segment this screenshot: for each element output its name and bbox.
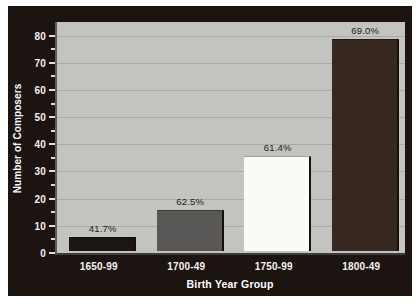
y-tick-label: 10 bbox=[34, 220, 46, 231]
bar-value-label: 62.5% bbox=[157, 196, 224, 207]
bar-value-label: 69.0% bbox=[332, 25, 399, 36]
y-tick-label: 70 bbox=[34, 57, 46, 68]
x-tick-label: 1800-49 bbox=[318, 261, 406, 272]
y-tick-label: 30 bbox=[34, 166, 46, 177]
y-tick-label: 20 bbox=[34, 193, 46, 204]
bar-value-label: 41.7% bbox=[69, 223, 136, 234]
bar-slot[interactable]: 69.0% bbox=[332, 18, 399, 251]
bar[interactable] bbox=[69, 237, 136, 251]
bar[interactable] bbox=[332, 39, 399, 251]
bar-slot[interactable]: 41.7% bbox=[69, 18, 136, 251]
bars-layer: 41.7%62.5%61.4%69.0% bbox=[57, 22, 405, 253]
y-tick-label: 80 bbox=[34, 30, 46, 41]
bar-slot[interactable]: 62.5% bbox=[157, 18, 224, 251]
bar-value-label: 61.4% bbox=[244, 142, 311, 153]
y-tick-label: 0 bbox=[40, 248, 46, 259]
x-tick-label: 1650-99 bbox=[55, 261, 143, 272]
plot-area: 41.7%62.5%61.4%69.0% bbox=[55, 22, 405, 255]
bar-slot[interactable]: 61.4% bbox=[244, 18, 311, 251]
y-tick-label: 40 bbox=[34, 139, 46, 150]
bar[interactable] bbox=[157, 210, 224, 251]
bar[interactable] bbox=[244, 156, 311, 251]
x-axis-title: Birth Year Group bbox=[55, 278, 405, 290]
y-axis: 01020304050607080 bbox=[16, 22, 55, 255]
y-tick-label: 60 bbox=[34, 84, 46, 95]
y-tick-label: 50 bbox=[34, 112, 46, 123]
x-tick-label: 1750-99 bbox=[230, 261, 318, 272]
x-tick-label: 1700-49 bbox=[143, 261, 231, 272]
chart-frame: Number of Composers 01020304050607080 41… bbox=[8, 6, 412, 296]
plot-wrap: 41.7%62.5%61.4%69.0% bbox=[55, 22, 405, 255]
